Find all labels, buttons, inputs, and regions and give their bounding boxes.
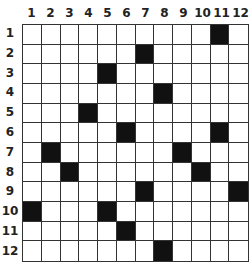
white-cell[interactable] xyxy=(98,182,117,202)
white-cell[interactable] xyxy=(79,182,98,202)
black-cell[interactable] xyxy=(229,182,248,202)
white-cell[interactable] xyxy=(211,222,230,242)
white-cell[interactable] xyxy=(79,143,98,163)
white-cell[interactable] xyxy=(61,64,80,84)
white-cell[interactable] xyxy=(229,104,248,124)
black-cell[interactable] xyxy=(136,45,155,65)
white-cell[interactable] xyxy=(229,202,248,222)
white-cell[interactable] xyxy=(98,25,117,45)
white-cell[interactable] xyxy=(98,163,117,183)
white-cell[interactable] xyxy=(61,241,80,261)
white-cell[interactable] xyxy=(211,45,230,65)
white-cell[interactable] xyxy=(23,241,42,261)
white-cell[interactable] xyxy=(229,241,248,261)
white-cell[interactable] xyxy=(117,163,136,183)
black-cell[interactable] xyxy=(61,163,80,183)
white-cell[interactable] xyxy=(136,123,155,143)
white-cell[interactable] xyxy=(42,45,61,65)
white-cell[interactable] xyxy=(211,202,230,222)
white-cell[interactable] xyxy=(42,222,61,242)
white-cell[interactable] xyxy=(98,84,117,104)
black-cell[interactable] xyxy=(98,64,117,84)
white-cell[interactable] xyxy=(79,222,98,242)
white-cell[interactable] xyxy=(173,64,192,84)
white-cell[interactable] xyxy=(136,241,155,261)
black-cell[interactable] xyxy=(211,25,230,45)
white-cell[interactable] xyxy=(42,64,61,84)
white-cell[interactable] xyxy=(23,64,42,84)
white-cell[interactable] xyxy=(173,84,192,104)
white-cell[interactable] xyxy=(173,163,192,183)
black-cell[interactable] xyxy=(117,123,136,143)
white-cell[interactable] xyxy=(173,182,192,202)
white-cell[interactable] xyxy=(61,123,80,143)
white-cell[interactable] xyxy=(192,123,211,143)
white-cell[interactable] xyxy=(117,104,136,124)
white-cell[interactable] xyxy=(117,241,136,261)
white-cell[interactable] xyxy=(98,45,117,65)
white-cell[interactable] xyxy=(79,202,98,222)
white-cell[interactable] xyxy=(173,104,192,124)
white-cell[interactable] xyxy=(154,25,173,45)
white-cell[interactable] xyxy=(192,202,211,222)
white-cell[interactable] xyxy=(23,163,42,183)
white-cell[interactable] xyxy=(211,163,230,183)
white-cell[interactable] xyxy=(211,182,230,202)
white-cell[interactable] xyxy=(42,163,61,183)
white-cell[interactable] xyxy=(61,84,80,104)
white-cell[interactable] xyxy=(229,163,248,183)
white-cell[interactable] xyxy=(154,45,173,65)
white-cell[interactable] xyxy=(229,222,248,242)
white-cell[interactable] xyxy=(192,241,211,261)
white-cell[interactable] xyxy=(229,25,248,45)
white-cell[interactable] xyxy=(136,25,155,45)
white-cell[interactable] xyxy=(117,202,136,222)
white-cell[interactable] xyxy=(192,104,211,124)
white-cell[interactable] xyxy=(154,202,173,222)
black-cell[interactable] xyxy=(136,182,155,202)
black-cell[interactable] xyxy=(42,143,61,163)
white-cell[interactable] xyxy=(192,25,211,45)
black-cell[interactable] xyxy=(79,104,98,124)
white-cell[interactable] xyxy=(173,25,192,45)
white-cell[interactable] xyxy=(79,123,98,143)
white-cell[interactable] xyxy=(192,143,211,163)
white-cell[interactable] xyxy=(154,123,173,143)
white-cell[interactable] xyxy=(136,64,155,84)
white-cell[interactable] xyxy=(42,104,61,124)
white-cell[interactable] xyxy=(136,163,155,183)
white-cell[interactable] xyxy=(192,45,211,65)
white-cell[interactable] xyxy=(136,104,155,124)
white-cell[interactable] xyxy=(173,123,192,143)
white-cell[interactable] xyxy=(136,143,155,163)
white-cell[interactable] xyxy=(23,182,42,202)
white-cell[interactable] xyxy=(42,241,61,261)
white-cell[interactable] xyxy=(154,222,173,242)
white-cell[interactable] xyxy=(136,202,155,222)
white-cell[interactable] xyxy=(154,104,173,124)
white-cell[interactable] xyxy=(79,64,98,84)
white-cell[interactable] xyxy=(23,104,42,124)
white-cell[interactable] xyxy=(154,182,173,202)
white-cell[interactable] xyxy=(98,104,117,124)
white-cell[interactable] xyxy=(79,45,98,65)
white-cell[interactable] xyxy=(61,143,80,163)
white-cell[interactable] xyxy=(229,45,248,65)
white-cell[interactable] xyxy=(23,123,42,143)
white-cell[interactable] xyxy=(61,104,80,124)
white-cell[interactable] xyxy=(229,143,248,163)
white-cell[interactable] xyxy=(61,25,80,45)
white-cell[interactable] xyxy=(173,222,192,242)
white-cell[interactable] xyxy=(117,143,136,163)
white-cell[interactable] xyxy=(229,123,248,143)
white-cell[interactable] xyxy=(211,84,230,104)
black-cell[interactable] xyxy=(192,163,211,183)
white-cell[interactable] xyxy=(23,45,42,65)
black-cell[interactable] xyxy=(23,202,42,222)
white-cell[interactable] xyxy=(42,84,61,104)
white-cell[interactable] xyxy=(173,202,192,222)
black-cell[interactable] xyxy=(98,202,117,222)
white-cell[interactable] xyxy=(79,84,98,104)
white-cell[interactable] xyxy=(79,241,98,261)
white-cell[interactable] xyxy=(42,123,61,143)
